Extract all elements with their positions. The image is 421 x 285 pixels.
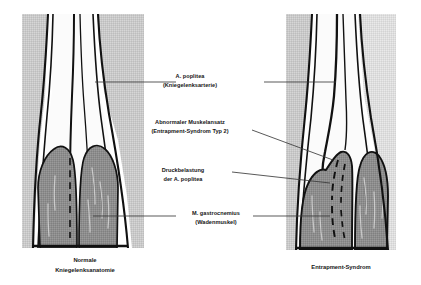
label-a-poplitea-line1: A. poplitea [140, 72, 240, 81]
label-abnormaler-muskelansatz-line2: (Entrapment-Syndrom Typ 2) [127, 127, 253, 136]
caption-normal-knee: Normale Kniegelenksanatomie [24, 256, 146, 276]
label-abnormaler-muskelansatz: Abnormaler Muskelansatz (Entrapment-Synd… [127, 118, 253, 136]
label-druckbelastung: Druckbelastung der A. poplitea [133, 166, 233, 184]
anatomy-illustration-canvas [0, 0, 421, 285]
label-m-gastrocnemius: M. gastrocnemius (Wadenmuskel) [178, 209, 254, 227]
label-a-poplitea: A. poplitea (Kniegelenksarterie) [140, 72, 240, 90]
caption-entrapment-syndrome: Entrapment-Syndrom [283, 263, 399, 273]
gastrocnemius-lateral-head [79, 146, 118, 248]
left-illustration-normal-knee [22, 14, 144, 248]
gastrocnemius-medial-head [38, 146, 77, 248]
label-m-gastrocnemius-line1: M. gastrocnemius [178, 209, 254, 218]
label-abnormaler-muskelansatz-line1: Abnormaler Muskelansatz [127, 118, 253, 127]
caption-entrapment-syndrome-line1: Entrapment-Syndrom [283, 263, 399, 273]
anatomy-figure: A. poplitea (Kniegelenksarterie) Abnorma… [0, 0, 421, 285]
label-druckbelastung-line1: Druckbelastung [133, 166, 233, 175]
label-a-poplitea-line2: (Kniegelenksarterie) [140, 81, 240, 90]
label-druckbelastung-line2: der A. poplitea [133, 175, 233, 184]
label-m-gastrocnemius-line2: (Wadenmuskel) [178, 218, 254, 227]
caption-normal-knee-line1: Normale [24, 256, 146, 266]
caption-normal-knee-line2: Kniegelenksanatomie [24, 266, 146, 276]
right-illustration-entrapment [286, 14, 396, 250]
